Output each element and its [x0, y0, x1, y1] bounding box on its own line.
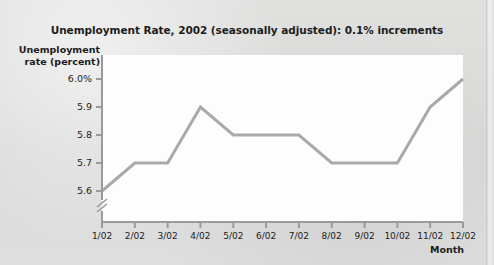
y-tick-label: 5.6 [40, 185, 92, 196]
x-tick-label: 12/02 [440, 231, 486, 241]
chart-axes [96, 55, 463, 228]
y-tick-label: 5.7 [40, 157, 92, 168]
y-tick-label: 5.9 [40, 101, 92, 112]
y-tick-label: 5.8 [40, 129, 92, 140]
data-series-line [102, 79, 463, 191]
y-tick-label: 6.0% [40, 73, 92, 84]
page-edge-seam [486, 0, 494, 265]
figure-canvas: Unemployment Rate, 2002 (seasonally adju… [0, 0, 494, 265]
x-axis-title: Month [398, 244, 464, 255]
